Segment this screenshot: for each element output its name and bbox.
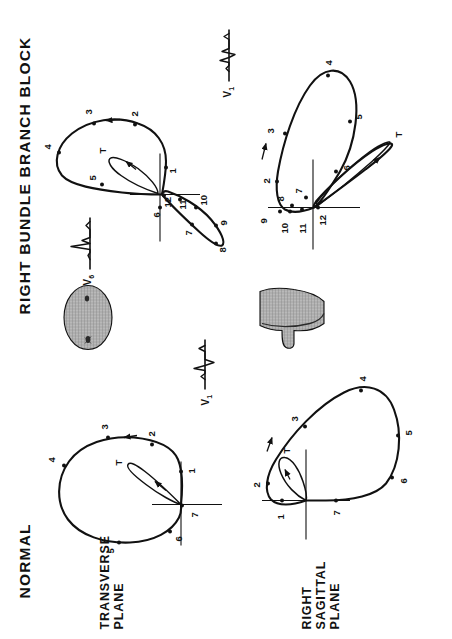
torso-diagram-sagittal <box>254 273 330 353</box>
point-label-9: 9 <box>258 218 269 223</box>
point-label-6: 6 <box>151 212 162 217</box>
point-label-2: 2 <box>129 111 140 116</box>
t-loop <box>109 157 158 193</box>
figure-page: NORMAL RIGHT BUNDLE BRANCH BLOCK TRANSVE… <box>0 0 452 639</box>
point-label-11: 11 <box>177 198 188 209</box>
point-label-6: 6 <box>173 536 184 541</box>
point-label-3: 3 <box>83 109 94 114</box>
t-loop <box>128 463 181 504</box>
loop-point-labels: 1 2 3 4 5 6 7 T <box>251 375 414 519</box>
axis-cross <box>152 461 222 545</box>
lead-label-v6: V6 <box>82 274 95 285</box>
point-label-4: 4 <box>323 59 334 65</box>
loop-point-labels: 1 2 3 4 5 6 7 T <box>46 424 200 553</box>
point-label-3: 3 <box>99 424 110 429</box>
column-title-normal: NORMAL <box>16 523 34 598</box>
point-label-t: T <box>393 131 404 137</box>
point-label-1: 1 <box>186 467 197 473</box>
panel-normal-sagittal: 1 2 3 4 5 6 7 T <box>240 342 435 557</box>
point-label-11: 11 <box>297 222 308 233</box>
point-label-5: 5 <box>105 547 116 553</box>
point-label-t: T <box>281 447 292 453</box>
ecg-tracing-v1-rbbb <box>210 27 240 83</box>
point-label-1: 1 <box>167 167 178 173</box>
row-label-right-sagittal-plane: RIGHT SAGITTAL PLANE <box>300 560 342 629</box>
lead-label-v6-sub: 6 <box>88 274 95 278</box>
point-label-4: 4 <box>357 375 368 381</box>
point-label-3: 3 <box>289 416 300 421</box>
vcg-loop-rbbb-sagittal: 2 3 4 5 6 7 8 9 10 11 12 T <box>240 27 430 267</box>
lead-label-v6-letter: V <box>82 278 93 285</box>
lead-label-v1-rbbb: V1 <box>222 86 235 97</box>
lead-label-v1-letter: V <box>200 398 211 405</box>
point-label-5: 5 <box>87 174 98 180</box>
direction-arrows <box>106 119 136 169</box>
qrs-loop <box>267 387 399 504</box>
torso-diagram-transverse <box>54 277 124 357</box>
t-loop <box>279 457 306 500</box>
ecg-tracing-v6-rbbb <box>66 215 98 271</box>
lead-label-v1-rbbb-sub: 1 <box>228 86 235 90</box>
point-label-3: 3 <box>265 128 276 133</box>
point-label-10: 10 <box>198 194 209 205</box>
lead-label-v1: V1 <box>200 394 213 405</box>
ecg-tracing-v1-normal <box>188 337 216 391</box>
point-label-4: 4 <box>42 143 53 149</box>
point-label-t: T <box>113 459 124 465</box>
point-label-8: 8 <box>275 196 286 201</box>
terminal-delay-limb <box>314 143 392 207</box>
point-label-1: 1 <box>275 513 286 519</box>
panel-rbbb-sagittal: 2 3 4 5 6 7 8 9 10 11 12 T <box>240 27 430 267</box>
t-loop <box>316 141 390 205</box>
panel-normal-transverse: 1 2 3 4 5 6 7 T V1 <box>42 342 227 557</box>
point-label-5: 5 <box>403 429 414 435</box>
point-label-8: 8 <box>217 247 228 252</box>
column-title-rbbb: RIGHT BUNDLE BRANCH BLOCK <box>16 36 34 314</box>
point-label-5: 5 <box>353 113 364 119</box>
qrs-loop <box>57 119 166 194</box>
point-label-10: 10 <box>279 222 290 233</box>
point-label-7: 7 <box>293 188 304 193</box>
point-label-12: 12 <box>162 196 173 207</box>
point-label-12: 12 <box>317 214 328 225</box>
point-label-7: 7 <box>331 510 342 515</box>
point-label-t: T <box>97 147 108 153</box>
point-label-4: 4 <box>46 456 57 462</box>
qrs-loop <box>277 70 357 211</box>
torso-sagittal-section-icon <box>254 273 330 353</box>
figure-canvas: NORMAL RIGHT BUNDLE BRANCH BLOCK TRANSVE… <box>0 0 452 639</box>
vcg-loop-normal-sagittal: 1 2 3 4 5 6 7 T <box>240 342 435 557</box>
point-label-2: 2 <box>261 178 272 183</box>
point-label-7: 7 <box>189 512 200 517</box>
point-label-6: 6 <box>398 478 409 483</box>
lead-label-v1-rbbb-letter: V <box>222 90 233 97</box>
point-label-6: 6 <box>341 165 352 170</box>
point-label-2: 2 <box>146 431 157 436</box>
point-label-9: 9 <box>218 220 229 225</box>
torso-transverse-section-icon <box>54 277 124 357</box>
point-label-7: 7 <box>183 230 194 235</box>
point-label-2: 2 <box>251 482 262 487</box>
lead-label-v1-sub: 1 <box>206 394 213 398</box>
panel-rbbb-transverse: 1 2 3 4 5 6 7 8 9 10 11 12 T <box>40 29 235 279</box>
